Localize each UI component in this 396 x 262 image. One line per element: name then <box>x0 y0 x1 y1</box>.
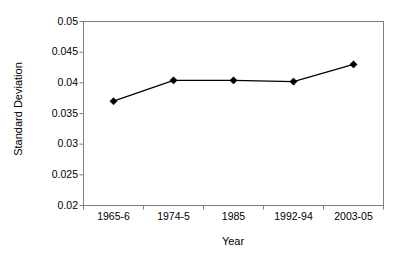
plot-area <box>0 0 396 262</box>
chart-container: Standard Deviation Year 0.020.0250.030.0… <box>0 0 396 262</box>
plot-frame <box>84 22 384 206</box>
